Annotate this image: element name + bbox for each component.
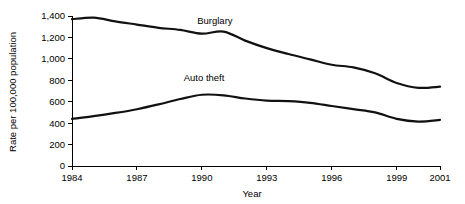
x-axis-title: Year — [242, 188, 261, 199]
x-tick-label: 2001 — [429, 172, 450, 183]
x-axis: 1984198719901993199619992001 — [61, 166, 450, 183]
x-tick-label: 1984 — [61, 172, 82, 183]
chart-canvas: 02004006008001,0001,2001,400 19841987199… — [0, 0, 465, 204]
x-tick-label: 1987 — [126, 172, 147, 183]
y-axis: 02004006008001,0001,2001,400 — [41, 10, 72, 171]
y-tick-label: 1,400 — [41, 10, 65, 21]
x-tick-label: 1990 — [191, 172, 212, 183]
y-tick-label: 600 — [49, 96, 65, 107]
series-lines — [72, 18, 440, 122]
series-line-burglary — [72, 18, 440, 88]
series-labels: BurglaryAuto theft — [184, 15, 233, 84]
x-tick-label: 1996 — [321, 172, 342, 183]
series-line-auto-theft — [72, 94, 440, 121]
line-chart: 02004006008001,0001,2001,400 19841987199… — [0, 0, 465, 204]
y-tick-label: 1,200 — [41, 32, 65, 43]
y-tick-label: 1,000 — [41, 53, 65, 64]
x-tick-label: 1999 — [386, 172, 407, 183]
y-tick-label: 400 — [49, 118, 65, 129]
y-axis-title: Rate per 100,000 population — [7, 32, 18, 152]
y-tick-label: 0 — [60, 160, 65, 171]
y-tick-label: 200 — [49, 139, 65, 150]
x-tick-label: 1993 — [256, 172, 277, 183]
series-label-burglary: Burglary — [197, 15, 233, 26]
series-label-auto-theft: Auto theft — [184, 72, 225, 83]
y-tick-label: 800 — [49, 75, 65, 86]
